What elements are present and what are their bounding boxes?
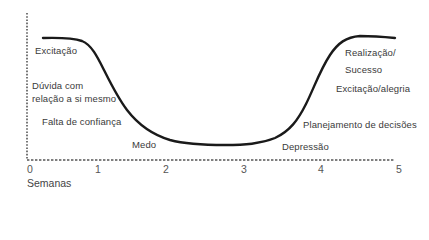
label-excitacao: Excitação bbox=[35, 45, 77, 56]
x-tick-2: 2 bbox=[163, 163, 169, 175]
label-depressao: Depressão bbox=[282, 141, 329, 152]
label-duvida-line2: relação a si mesmo bbox=[32, 93, 116, 104]
label-duvida-line1: Dúvida com bbox=[32, 80, 83, 91]
x-tick-5: 5 bbox=[396, 163, 402, 175]
label-falta-de-confianca: Falta de confiança bbox=[42, 116, 121, 127]
x-tick-3: 3 bbox=[241, 163, 247, 175]
label-sucesso: Sucesso bbox=[345, 64, 382, 75]
label-medo: Medo bbox=[132, 139, 156, 150]
label-excitacao-alegria: Excitação/alegria bbox=[336, 83, 410, 94]
x-tick-4: 4 bbox=[318, 163, 324, 175]
x-tick-1: 1 bbox=[95, 163, 101, 175]
x-axis-title: Semanas bbox=[27, 177, 71, 189]
label-planejamento: Planejamento de decisões bbox=[303, 119, 417, 130]
x-tick-0: 0 bbox=[27, 163, 33, 175]
label-realizacao: Realização/ bbox=[345, 47, 396, 58]
